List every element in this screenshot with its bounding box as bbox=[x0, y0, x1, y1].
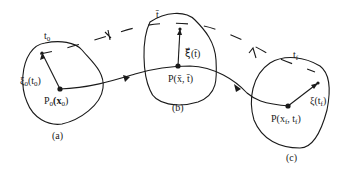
caption-b: (b) bbox=[172, 102, 184, 114]
vector-xif-tip bbox=[316, 81, 319, 84]
caption-a: (a) bbox=[52, 130, 63, 142]
trajectory-curve bbox=[60, 66, 290, 106]
vector-xi-bar-tip bbox=[178, 27, 181, 30]
point-p0 bbox=[57, 86, 62, 91]
vector-xi0 bbox=[42, 53, 60, 89]
point-p-bar bbox=[175, 63, 180, 68]
time-label-a: t0 bbox=[44, 30, 51, 43]
point-label-b: P(x̄, t̄) bbox=[168, 73, 193, 85]
point-label-a: P0(x0) bbox=[44, 95, 68, 108]
vector-label-b: ξ⃗(t̄) bbox=[185, 47, 200, 60]
vector-xi0-tip bbox=[40, 51, 43, 54]
trajectory-arrow-2 bbox=[234, 84, 241, 92]
point-label-c: P(xf, tf) bbox=[271, 113, 301, 126]
time-label-c: tf bbox=[293, 49, 299, 62]
region-b-boundary bbox=[144, 13, 216, 104]
time-label-b: t̄ bbox=[155, 9, 159, 20]
vector-label-c: ξ(tf) bbox=[310, 95, 326, 108]
dashed-arrow-2 bbox=[249, 48, 256, 58]
caption-c: (c) bbox=[286, 152, 297, 164]
trajectory-diagram: t0 ξ0(t0) P0(x0) (a) t̄ ξ⃗(t̄) P(x̄, t̄)… bbox=[0, 0, 349, 173]
dashed-arrow-1 bbox=[105, 30, 111, 40]
point-pf bbox=[285, 103, 290, 108]
